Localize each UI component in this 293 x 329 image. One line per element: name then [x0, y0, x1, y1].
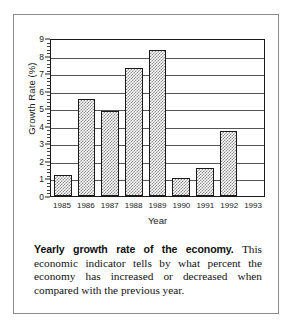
bar-1989: [149, 50, 167, 196]
x-tick-label-1987: 1987: [98, 201, 122, 210]
plot-wrapper: 0123456789: [50, 39, 265, 197]
y-tick-label-8: 8: [39, 52, 44, 62]
bar-slot-1985: [51, 40, 75, 196]
y-tick-label-5: 5: [39, 104, 44, 114]
y-tick-label-4: 4: [39, 122, 44, 132]
x-tick-label-1992: 1992: [217, 201, 241, 210]
y-tick-label-6: 6: [39, 87, 44, 97]
caption-lead: Yearly growth rate of the economy.: [34, 243, 234, 255]
bar-slot-1986: [75, 40, 99, 196]
y-tick-label-3: 3: [39, 139, 44, 149]
x-tick-label-1988: 1988: [122, 201, 146, 210]
x-tick-label-1993: 1993: [241, 201, 265, 210]
bar-1987: [101, 111, 119, 196]
x-tick-label-1989: 1989: [146, 201, 170, 210]
bar-1988: [125, 68, 143, 196]
x-tick-label-1986: 1986: [74, 201, 98, 210]
plot-area: [50, 39, 265, 197]
bar-slot-1993: [240, 40, 264, 196]
bar-1992: [220, 131, 238, 196]
x-axis-tick-labels: 198519861987198819891990199119921993: [50, 201, 265, 210]
bar-1985: [54, 175, 72, 196]
bars-container: [51, 40, 264, 196]
y-tick-label-9: 9: [39, 34, 44, 44]
y-tick-label-1: 1: [39, 174, 44, 184]
x-axis-label: Year: [50, 215, 265, 226]
bar-slot-1988: [122, 40, 146, 196]
x-tick-label-1985: 1985: [50, 201, 74, 210]
x-tick-label-1991: 1991: [193, 201, 217, 210]
bar-slot-1989: [146, 40, 170, 196]
bar-chart: Growth Rate (%) 0123456789 1985198619871…: [14, 15, 280, 235]
bar-1991: [196, 168, 214, 196]
bar-slot-1992: [217, 40, 241, 196]
bar-slot-1991: [193, 40, 217, 196]
bar-1986: [78, 99, 96, 196]
figure-frame: Growth Rate (%) 0123456789 1985198619871…: [13, 14, 279, 314]
y-axis-label: Growth Rate (%): [26, 44, 37, 154]
x-tick-label-1990: 1990: [169, 201, 193, 210]
bar-1990: [172, 178, 190, 196]
y-tick-label-2: 2: [39, 157, 44, 167]
bar-slot-1987: [98, 40, 122, 196]
y-tick-label-7: 7: [39, 69, 44, 79]
y-tick-label-0: 0: [39, 192, 44, 202]
bar-slot-1990: [169, 40, 193, 196]
figure-caption: Yearly growth rate of the economy. This …: [34, 243, 262, 297]
